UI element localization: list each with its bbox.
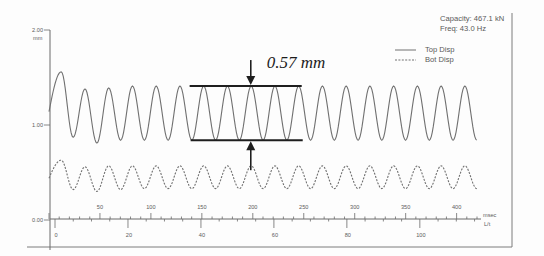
lt-tick-label: 100	[416, 232, 425, 238]
msec-tick-label: 100	[146, 204, 155, 210]
legend-item-bot-disp: Bot Disp	[395, 55, 454, 64]
top-disp-line	[49, 72, 477, 143]
lt-tick-label: 80	[345, 232, 351, 238]
lt-tick-label: 0	[54, 232, 57, 238]
legend-item-top-disp: Top Disp	[395, 45, 455, 54]
lt-axis-label: L/t	[484, 221, 491, 227]
bot-disp-line	[49, 160, 477, 191]
y-axis: mm 0.001.002.00	[32, 27, 50, 250]
frequency-label: Freq: 43.0 Hz	[440, 24, 486, 33]
lt-tick-label: 40	[199, 232, 205, 238]
y-tick-label: 2.00	[32, 27, 43, 33]
msec-tick-label: 300	[350, 204, 359, 210]
series-group	[49, 72, 477, 192]
lt-tick-label: 60	[272, 232, 278, 238]
lt-ticks: 020406080100	[54, 219, 474, 238]
legend: Top Disp Bot Disp	[395, 45, 455, 64]
y-axis-unit-label: mm	[33, 35, 43, 41]
legend-label: Top Disp	[425, 45, 455, 54]
msec-tick-label: 400	[452, 204, 461, 210]
msec-tick-label: 200	[248, 204, 257, 210]
info-block: Capacity: 467.1 kN Freq: 43.0 Hz	[440, 14, 504, 33]
lt-tick-label: 20	[126, 232, 132, 238]
amplitude-label: 0.57 mm	[267, 53, 326, 72]
msec-tick-label: 350	[401, 204, 410, 210]
msec-tick-label: 150	[197, 204, 206, 210]
displacement-chart: Capacity: 467.1 kN Freq: 43.0 Hz Top Dis…	[0, 0, 544, 256]
legend-label: Bot Disp	[425, 55, 454, 64]
x-axis: 50100150200250300350400 020406080100 mse…	[49, 204, 497, 238]
y-tick-label: 1.00	[32, 122, 43, 128]
y-tick-label: 0.00	[32, 217, 43, 223]
msec-tick-label: 250	[299, 204, 308, 210]
msec-tick-label: 50	[97, 204, 103, 210]
down-arrow-icon	[246, 76, 255, 85]
capacity-label: Capacity: 467.1 kN	[440, 14, 504, 23]
y-ticks: 0.001.002.00	[32, 27, 50, 223]
msec-axis-label: msec	[483, 212, 497, 218]
msec-ticks: 50100150200250300350400	[49, 204, 477, 219]
